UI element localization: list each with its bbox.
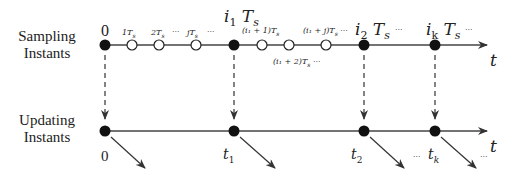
- update-label-0: 0: [101, 148, 109, 165]
- time-axis-label-bottom: t: [490, 136, 497, 156]
- label-line: Instants: [8, 129, 86, 146]
- sample-label-i1pjTs: (i₁ + j)Ts ···: [303, 26, 348, 37]
- open-sample-i1p1: [257, 40, 267, 50]
- update-label-tk: tk: [428, 146, 439, 165]
- ellipsis: ···: [465, 25, 473, 34]
- time-axis-label-top: t: [490, 50, 497, 70]
- label-line: Instants: [8, 45, 86, 62]
- sample-label-2Ts: 2Ts: [151, 28, 165, 39]
- update-label-t1: t1: [223, 146, 234, 165]
- diag-arrow-0: [111, 137, 145, 168]
- ellipsis: ···: [395, 25, 403, 34]
- filled-update-0: [100, 126, 111, 137]
- diag-arrow-t1: [240, 137, 275, 168]
- updating-instants-label: Updating Instants: [8, 112, 86, 146]
- filled-sample-i1: [229, 40, 240, 51]
- open-sample-i1pj: [321, 40, 331, 50]
- open-sample-1: [127, 40, 137, 50]
- sample-label-ikTs: ik Ts: [426, 19, 461, 42]
- update-label-t2: t2: [351, 146, 362, 165]
- label-line: Sampling: [8, 28, 86, 45]
- filled-update-t2: [359, 126, 370, 137]
- filled-sample-0: [100, 40, 111, 51]
- label-line: Updating: [8, 112, 86, 129]
- open-sample-2: [154, 40, 164, 50]
- open-sample-i1p2: [284, 40, 294, 50]
- sample-label-jTs: jTs: [187, 28, 198, 39]
- sample-label-1Ts: 1Ts: [122, 28, 136, 39]
- ellipsis: ···: [172, 27, 180, 36]
- diag-arrow-tk: [441, 137, 476, 168]
- filled-update-tk: [430, 126, 441, 137]
- sample-label-i2Ts: i2 Ts: [355, 19, 390, 42]
- sample-label-i1p1Ts: (i₁ + 1)Ts: [242, 26, 279, 37]
- filled-update-t1: [229, 126, 240, 137]
- sampling-instants-label: Sampling Instants: [8, 28, 86, 62]
- sample-label-0: 0: [101, 22, 109, 40]
- ellipsis: ···: [480, 152, 488, 161]
- ellipsis: ···: [207, 27, 215, 36]
- sample-label-i1p2Ts: (i₁ + 2)Ts ···: [273, 57, 321, 68]
- open-sample-j: [191, 40, 201, 50]
- ellipsis: ···: [413, 152, 421, 161]
- diag-arrow-t2: [370, 137, 404, 168]
